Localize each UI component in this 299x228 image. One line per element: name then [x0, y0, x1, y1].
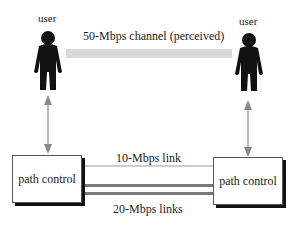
- path-control-box-right: path control: [213, 157, 283, 205]
- link-20mbps-label: 20-Mbps links: [113, 203, 183, 215]
- user-icon-left: [34, 31, 62, 90]
- user-label-right: user: [239, 16, 257, 27]
- user-label-left: user: [38, 13, 56, 24]
- path-control-label-left: path control: [18, 172, 76, 187]
- user-icon-right: [235, 33, 263, 91]
- link-10mbps-label: 10-Mbps link: [116, 152, 181, 164]
- arrow-left-bidirectional: [44, 95, 52, 154]
- path-control-label-right: path control: [219, 174, 277, 189]
- perceived-channel-label: 50-Mbps channel (perceived): [83, 30, 224, 42]
- perceived-channel-bar: [66, 49, 232, 58]
- arrow-right-bidirectional: [244, 100, 252, 157]
- path-control-box-left: path control: [12, 155, 82, 203]
